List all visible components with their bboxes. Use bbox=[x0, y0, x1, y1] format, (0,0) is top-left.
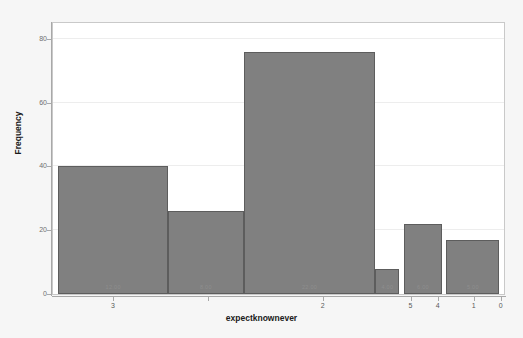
x-tick-mark bbox=[411, 297, 412, 301]
y-tick-mark bbox=[47, 230, 51, 231]
x-axis-title: expectknownever bbox=[0, 313, 523, 323]
y-tick-label: 60 bbox=[21, 99, 47, 106]
bar-value-label: 8.00 bbox=[169, 284, 243, 290]
bar: 12.00 bbox=[58, 166, 168, 294]
x-tick-mark bbox=[208, 297, 209, 301]
y-axis-title: Frequency bbox=[13, 93, 23, 173]
x-tick-label: 5 bbox=[409, 302, 413, 309]
y-tick-mark bbox=[47, 39, 51, 40]
y-tick-label: 0 bbox=[21, 290, 47, 297]
bar-value-label: 5.00 bbox=[447, 284, 498, 290]
x-tick-mark bbox=[113, 297, 114, 301]
bar-value-label: 12.00 bbox=[59, 284, 167, 290]
plot-area: 12.008.0022.004.006.005.00 bbox=[52, 22, 505, 295]
x-tick-label: 3 bbox=[111, 302, 115, 309]
x-tick-mark bbox=[323, 297, 324, 301]
y-tick-label: 80 bbox=[21, 35, 47, 42]
y-axis-line bbox=[51, 22, 52, 296]
y-tick-mark bbox=[47, 294, 51, 295]
bar: 6.00 bbox=[404, 224, 442, 294]
y-tick-mark bbox=[47, 103, 51, 104]
gridline bbox=[53, 38, 504, 39]
bar: 4.00 bbox=[375, 269, 399, 295]
y-tick-label: 40 bbox=[21, 162, 47, 169]
x-tick-label: 4 bbox=[436, 302, 440, 309]
bar: 8.00 bbox=[168, 211, 244, 294]
chart-figure: 12.008.0022.004.006.005.00 020406080 Fre… bbox=[0, 0, 523, 338]
x-tick-mark bbox=[501, 297, 502, 301]
bar: 5.00 bbox=[446, 240, 499, 294]
bar: 22.00 bbox=[244, 52, 376, 294]
x-tick-mark bbox=[438, 297, 439, 301]
x-tick-label: 1 bbox=[472, 302, 476, 309]
y-tick-mark bbox=[47, 166, 51, 167]
x-tick-label: 0 bbox=[499, 302, 503, 309]
bar-value-label: 22.00 bbox=[245, 284, 375, 290]
y-tick-label: 20 bbox=[21, 226, 47, 233]
x-tick-label: 2 bbox=[321, 302, 325, 309]
bar-value-label: 6.00 bbox=[405, 284, 441, 290]
bar-value-label: 4.00 bbox=[376, 284, 398, 290]
x-tick-mark bbox=[474, 297, 475, 301]
